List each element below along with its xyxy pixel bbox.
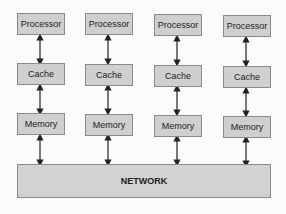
cache-box-1: Cache: [17, 63, 65, 85]
memory-box-3: Memory: [154, 115, 202, 137]
cache-box-4: Cache: [223, 66, 271, 88]
diagram-canvas: Processor Cache Memory Processor Cache M…: [0, 0, 286, 214]
memory-box-1: Memory: [17, 113, 65, 135]
processor-box-4: Processor: [223, 15, 271, 37]
memory-box-2: Memory: [85, 114, 133, 136]
processor-box-3: Processor: [154, 14, 202, 36]
network-box: NETWORK: [17, 164, 271, 198]
cache-box-2: Cache: [85, 64, 133, 86]
memory-box-4: Memory: [223, 116, 271, 138]
cache-box-3: Cache: [154, 65, 202, 87]
processor-box-1: Processor: [17, 13, 65, 35]
processor-box-2: Processor: [85, 13, 133, 35]
